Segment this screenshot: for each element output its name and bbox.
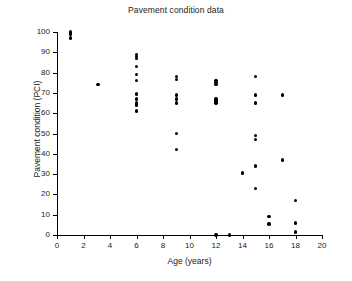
- scatter-point: [135, 109, 138, 112]
- x-tick-mark: [296, 235, 297, 239]
- scatter-plot-area: [57, 32, 322, 235]
- scatter-point: [254, 134, 257, 137]
- x-axis-label: Age (years): [57, 256, 322, 266]
- x-tick-mark: [322, 235, 323, 239]
- x-tick-label: 18: [283, 241, 309, 250]
- scatter-point: [214, 83, 217, 86]
- scatter-point: [254, 75, 257, 78]
- scatter-point: [69, 32, 72, 35]
- scatter-point: [241, 171, 244, 174]
- x-tick-mark: [190, 235, 191, 239]
- chart-figure: Pavement condition data Age (years) Pave…: [0, 0, 352, 281]
- scatter-point: [267, 222, 270, 225]
- scatter-point: [135, 79, 138, 82]
- chart-title: Pavement condition data: [0, 5, 352, 15]
- x-tick-label: 6: [124, 241, 150, 250]
- y-tick-label: 60: [18, 108, 50, 117]
- y-tick-label: 30: [18, 169, 50, 178]
- x-tick-label: 16: [256, 241, 282, 250]
- scatter-point: [267, 215, 270, 218]
- x-tick-label: 12: [203, 241, 229, 250]
- scatter-point: [254, 187, 257, 190]
- x-tick-mark: [163, 235, 164, 239]
- scatter-point: [175, 101, 178, 104]
- x-tick-label: 10: [177, 241, 203, 250]
- y-tick-label: 20: [18, 189, 50, 198]
- scatter-point: [254, 101, 257, 104]
- x-tick-mark: [84, 235, 85, 239]
- scatter-point: [135, 97, 138, 100]
- scatter-point: [228, 233, 231, 236]
- scatter-point: [214, 101, 217, 104]
- scatter-point: [135, 73, 138, 76]
- y-tick-label: 90: [18, 47, 50, 56]
- scatter-point: [281, 93, 284, 96]
- x-tick-label: 14: [230, 241, 256, 250]
- scatter-point: [214, 233, 217, 236]
- y-tick-label: 0: [18, 230, 50, 239]
- scatter-point: [254, 138, 257, 141]
- scatter-point: [254, 164, 257, 167]
- scatter-point: [175, 132, 178, 135]
- x-tick-mark: [57, 235, 58, 239]
- x-tick-label: 2: [71, 241, 97, 250]
- x-tick-label: 4: [97, 241, 123, 250]
- scatter-point: [294, 199, 297, 202]
- scatter-point: [175, 148, 178, 151]
- y-tick-label: 40: [18, 149, 50, 158]
- x-tick-label: 20: [309, 241, 335, 250]
- scatter-point: [135, 57, 138, 60]
- scatter-point: [135, 92, 138, 95]
- x-tick-mark: [269, 235, 270, 239]
- x-tick-label: 8: [150, 241, 176, 250]
- scatter-point: [254, 93, 257, 96]
- scatter-point: [96, 83, 99, 86]
- scatter-point: [294, 221, 297, 224]
- x-tick-label: 0: [44, 241, 70, 250]
- scatter-point: [294, 230, 297, 233]
- x-tick-mark: [137, 235, 138, 239]
- y-tick-mark: [53, 235, 57, 236]
- y-tick-label: 50: [18, 129, 50, 138]
- scatter-point: [281, 158, 284, 161]
- y-tick-label: 100: [18, 27, 50, 36]
- x-tick-mark: [110, 235, 111, 239]
- scatter-point: [175, 78, 178, 81]
- scatter-point: [135, 103, 138, 106]
- y-tick-label: 10: [18, 210, 50, 219]
- scatter-point: [175, 97, 178, 100]
- scatter-point: [175, 93, 178, 96]
- y-tick-label: 80: [18, 68, 50, 77]
- y-tick-label: 70: [18, 88, 50, 97]
- x-tick-mark: [243, 235, 244, 239]
- scatter-point: [135, 65, 138, 68]
- scatter-point: [69, 36, 72, 39]
